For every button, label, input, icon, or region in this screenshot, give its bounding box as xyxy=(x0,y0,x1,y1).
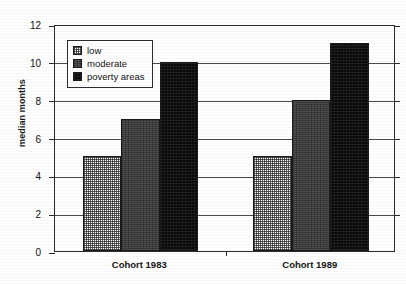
y-tick-mark-right xyxy=(394,63,400,64)
legend-item-moderate: moderate xyxy=(73,57,145,70)
legend-swatch-moderate-icon xyxy=(73,59,82,68)
y-tick-mark-right xyxy=(394,177,400,178)
y-tick-mark-right xyxy=(394,215,400,216)
y-tick-label: 8 xyxy=(11,97,41,107)
bar-poverty-areas-group-2 xyxy=(330,43,369,251)
bar-poverty-areas-group-1 xyxy=(160,62,199,251)
bar-moderate-group-2 xyxy=(292,100,331,251)
x-category-label: Cohort 1989 xyxy=(225,259,396,270)
legend-item-poverty-areas: poverty areas xyxy=(73,70,145,83)
legend-item-low: low xyxy=(73,44,145,57)
bar-chart: median months 121086420 low moderate pov… xyxy=(0,0,406,284)
y-tick-label: 2 xyxy=(11,210,41,220)
legend-label-poverty-areas: poverty areas xyxy=(87,72,145,82)
plot-area: 121086420 low moderate poverty areas xyxy=(54,25,395,252)
y-tick-mark xyxy=(49,253,55,254)
y-tick-label: 10 xyxy=(11,59,41,69)
y-axis-title: median months xyxy=(17,53,27,173)
legend-swatch-low-icon xyxy=(73,46,82,55)
legend-label-moderate: moderate xyxy=(87,59,127,69)
y-tick-label: 12 xyxy=(11,21,41,31)
y-tick-mark-right xyxy=(394,139,400,140)
y-tick-label: 4 xyxy=(11,172,41,182)
legend-label-low: low xyxy=(87,46,101,56)
legend-swatch-poverty-areas-icon xyxy=(73,72,82,81)
y-tick-mark-right xyxy=(394,101,400,102)
bar-low-group-2 xyxy=(253,156,292,251)
y-tick-label: 6 xyxy=(11,135,41,145)
chart-legend: low moderate poverty areas xyxy=(67,40,153,88)
x-tick-mark xyxy=(226,251,227,256)
bar-low-group-1 xyxy=(83,156,122,251)
bar-moderate-group-1 xyxy=(121,119,160,251)
y-tick-mark-right xyxy=(394,26,400,27)
y-tick-label: 0 xyxy=(11,248,41,258)
x-category-label: Cohort 1983 xyxy=(54,259,225,270)
